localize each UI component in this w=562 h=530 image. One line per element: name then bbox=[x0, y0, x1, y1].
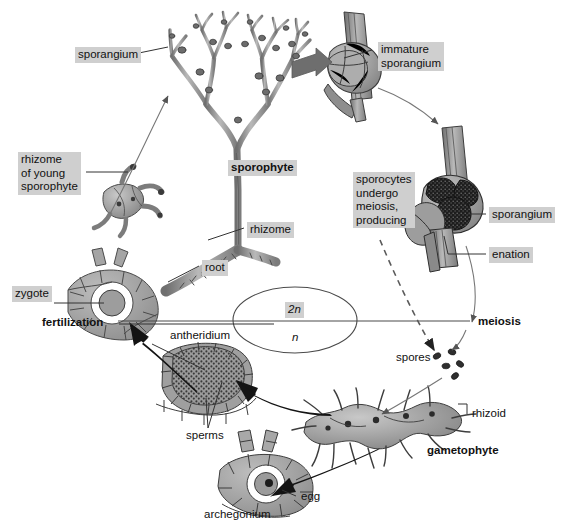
life-cycle-figure: sporangium rhizome of young sporophyte s… bbox=[0, 0, 562, 530]
young-sporophyte-illustration bbox=[94, 164, 164, 236]
label-sporophyte: sporophyte bbox=[228, 160, 297, 176]
label-egg: egg bbox=[301, 490, 320, 504]
label-fertilization: fertilization bbox=[42, 316, 103, 330]
label-ploidy-haploid: n bbox=[292, 331, 298, 345]
label-rhizoid: rhizoid bbox=[472, 407, 506, 421]
sporophyte-illustration bbox=[166, 12, 310, 291]
leader-rhizoid bbox=[458, 404, 467, 414]
label-ploidy-diploid: 2n bbox=[285, 302, 304, 318]
spores-illustration bbox=[432, 348, 465, 381]
archegonium-illustration bbox=[218, 430, 313, 517]
label-enation: enation bbox=[489, 247, 533, 263]
label-sporocytes-note: sporocytes undergo meiosis, producing bbox=[353, 172, 415, 228]
label-immature-sporangium: immature sporangium bbox=[378, 42, 444, 71]
label-sporangium-top: sporangium bbox=[75, 47, 141, 63]
label-antheridium: antheridium bbox=[170, 329, 230, 343]
label-gametophyte: gametophyte bbox=[427, 444, 499, 458]
label-zygote: zygote bbox=[12, 286, 52, 302]
mature-sporangium-illustration bbox=[405, 126, 483, 272]
immature-sporangium-illustration bbox=[324, 12, 381, 122]
arrow-sporangium-to-meiosis bbox=[466, 246, 475, 322]
label-rhizome: rhizome bbox=[247, 222, 294, 238]
label-archegonium: archegonium bbox=[204, 508, 270, 522]
label-sperms: sperms bbox=[186, 429, 224, 443]
label-spores: spores bbox=[396, 351, 431, 365]
label-root: root bbox=[202, 260, 228, 276]
label-sporangium-right: sporangium bbox=[489, 207, 555, 223]
arrow-meiosis-to-spores bbox=[452, 330, 466, 350]
arrow-immature-to-mature-sporangium bbox=[378, 88, 438, 124]
label-rhizome-young-sporophyte: rhizome of young sporophyte bbox=[18, 152, 81, 195]
label-meiosis: meiosis bbox=[478, 315, 521, 329]
dashed-sporocytes-to-spores bbox=[380, 240, 434, 350]
